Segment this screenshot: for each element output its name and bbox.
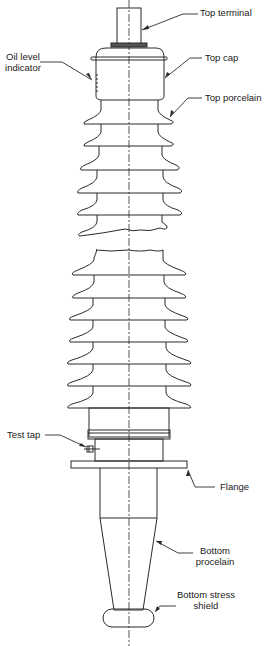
label-flange: Flange: [220, 482, 249, 493]
label-oil-level-line1: Oil level: [2, 52, 44, 63]
label-test-tap: Test tap: [7, 430, 40, 441]
label-bottom-stress-shield-line2: shield: [172, 601, 240, 612]
label-bottom-stress-shield: Bottom stress shield: [172, 590, 240, 611]
bottom-stress-shield: [103, 609, 154, 627]
label-bottom-porcelain-line1: Bottom: [190, 546, 240, 557]
label-bottom-porcelain-line2: procelain: [190, 557, 240, 568]
top-porcelain: [78, 100, 182, 236]
label-bottom-stress-shield-line1: Bottom stress: [172, 590, 240, 601]
label-oil-level-line2: indicator: [2, 63, 44, 74]
label-top-porcelain: Top porcelain: [205, 93, 262, 104]
label-oil-level-indicator: Oil level indicator: [2, 52, 44, 73]
test-tap: [84, 446, 100, 452]
label-top-terminal: Top terminal: [200, 8, 252, 19]
bottom-porcelain-cone: [100, 518, 157, 610]
top-cap: [96, 48, 164, 100]
label-bottom-porcelain: Bottom procelain: [190, 546, 240, 567]
label-top-cap: Top cap: [205, 53, 238, 64]
terminal-base: [111, 43, 147, 47]
leader-lines: [40, 14, 215, 612]
bottom-porcelain-upper: [100, 468, 157, 518]
